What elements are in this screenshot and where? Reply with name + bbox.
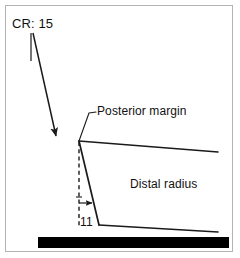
diagram-figure: CR: 15 Posterior margin Distal radius 11 xyxy=(0,0,240,258)
angle-value-label: 11 xyxy=(80,216,93,228)
detector-bar xyxy=(38,237,229,248)
figure-border xyxy=(6,6,233,252)
posterior-margin-label: Posterior margin xyxy=(97,105,187,117)
central-ray-label: CR: 15 xyxy=(12,17,53,30)
diagram-canvas xyxy=(0,0,240,258)
distal-radius-label: Distal radius xyxy=(130,178,197,190)
